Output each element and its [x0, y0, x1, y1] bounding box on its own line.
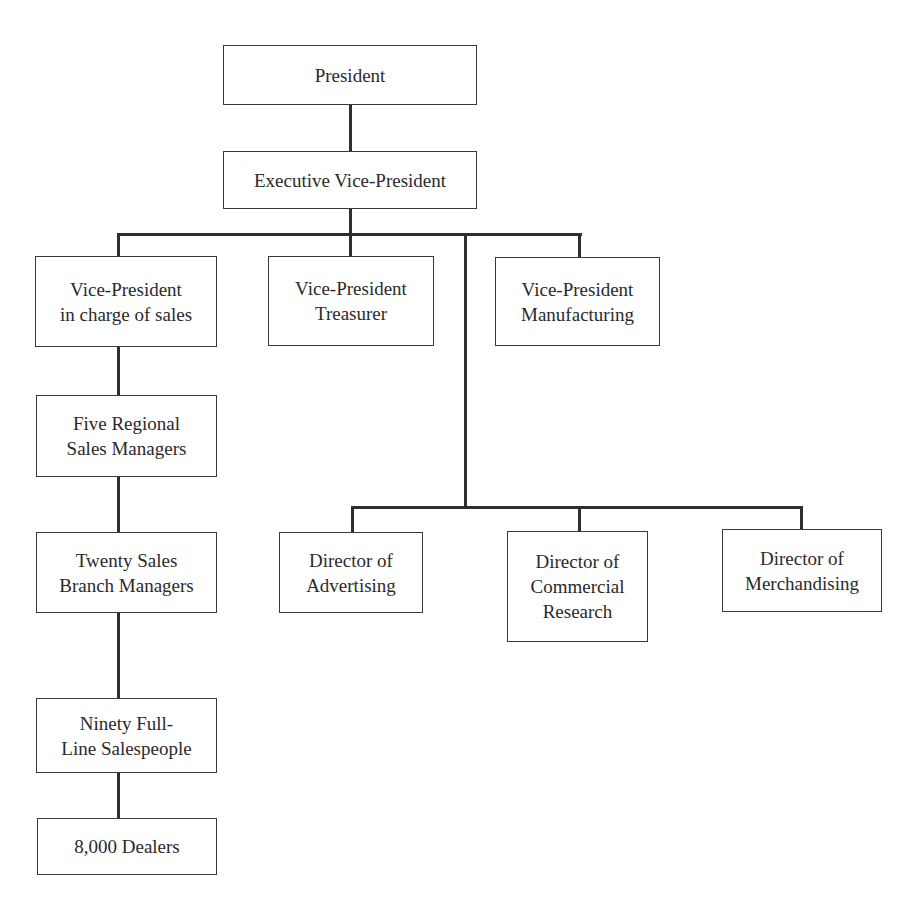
node-regional-sales-managers: Five Regional Sales Managers — [36, 395, 217, 477]
connector-bus-vp-treasurer — [349, 233, 352, 256]
node-label: Director of — [760, 546, 844, 571]
node-dealers: 8,000 Dealers — [37, 818, 217, 875]
connector-execvp-bus — [349, 209, 352, 235]
node-label: President — [315, 63, 386, 88]
node-label: Commercial — [531, 574, 625, 599]
node-director-commercial-research: Director of Commercial Research — [507, 531, 648, 642]
node-label: Vice-President — [522, 277, 634, 302]
node-director-merchandising: Director of Merchandising — [722, 529, 882, 612]
node-label: Line Salespeople — [61, 736, 191, 761]
node-label: Five Regional — [73, 411, 180, 436]
node-label: Research — [543, 599, 613, 624]
node-label: Advertising — [306, 573, 396, 598]
node-label: Ninety Full- — [80, 711, 173, 736]
node-label: Vice-President — [70, 277, 182, 302]
directors-bus-line — [351, 506, 803, 509]
node-vp-manufacturing: Vice-President Manufacturing — [495, 257, 660, 346]
node-label: Twenty Sales — [76, 548, 178, 573]
connector-president-execvp — [349, 105, 352, 151]
node-executive-vice-president: Executive Vice-President — [223, 151, 477, 209]
node-branch-managers: Twenty Sales Branch Managers — [36, 532, 217, 613]
node-president: President — [223, 45, 477, 105]
node-label: Vice-President — [295, 276, 407, 301]
connector-bus-dir-advertising — [351, 506, 354, 532]
node-label: in charge of sales — [60, 302, 192, 327]
connector-bus-vp-sales — [117, 233, 120, 256]
node-label: 8,000 Dealers — [74, 834, 180, 859]
connector-bus-vp-manufacturing — [578, 233, 581, 257]
node-vp-treasurer: Vice-President Treasurer — [268, 256, 434, 346]
node-label: Treasurer — [315, 301, 387, 326]
node-full-line-salespeople: Ninety Full- Line Salespeople — [36, 698, 217, 773]
connector-vp-sales-regional — [117, 346, 120, 395]
node-label: Executive Vice-President — [254, 168, 446, 193]
node-label: Sales Managers — [67, 436, 187, 461]
node-vp-sales: Vice-President in charge of sales — [35, 256, 217, 347]
node-director-advertising: Director of Advertising — [279, 532, 423, 613]
connector-salespeople-dealers — [117, 773, 120, 818]
node-label: Director of — [309, 548, 393, 573]
node-label: Manufacturing — [521, 302, 634, 327]
connector-bus-dir-merchandising — [800, 506, 803, 530]
node-label: Director of — [536, 549, 620, 574]
connector-branch-salespeople — [117, 613, 120, 698]
connector-regional-branch — [117, 477, 120, 532]
connector-bus-dir-research — [578, 506, 581, 532]
node-label: Merchandising — [745, 571, 859, 596]
connector-bus-directors — [464, 233, 467, 508]
node-label: Branch Managers — [59, 573, 194, 598]
